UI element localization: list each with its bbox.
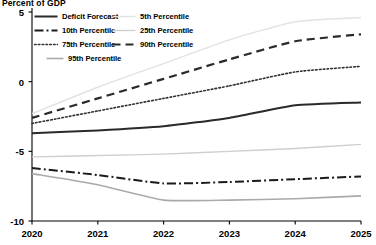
legend-item: 90th Percentile (112, 38, 220, 51)
legend-item: Deficit Forecast (34, 10, 112, 23)
legend-swatch-icon (34, 26, 58, 35)
legend-swatch-icon (112, 12, 136, 21)
legend-item: 25th Percentile (112, 24, 220, 37)
legend-swatch-icon (112, 40, 136, 49)
legend-item: 10th Percentile (34, 24, 112, 37)
legend-swatch-icon (34, 40, 58, 49)
legend-item: 95th Percentile (34, 52, 112, 65)
x-axis-tick-label: 2022 (142, 228, 186, 239)
legend-item: 5th Percentile (112, 10, 220, 23)
series-line (32, 103, 361, 134)
legend-label: 25th Percentile (140, 26, 193, 35)
x-axis-tick-label: 2024 (273, 228, 317, 239)
chart-legend: Deficit Forecast5th Percentile10th Perce… (34, 10, 220, 65)
y-axis-tick-label: 5 (0, 7, 24, 18)
y-axis-tick-label: -5 (0, 146, 24, 157)
x-axis-tick-label: 2023 (207, 228, 251, 239)
y-axis-tick-label: -10 (0, 216, 24, 227)
legend-label: 10th Percentile (62, 26, 115, 35)
legend-label: 5th Percentile (140, 12, 189, 21)
legend-swatch-icon (112, 26, 136, 35)
legend-label: 75th Percentile (62, 40, 115, 49)
legend-label: Deficit Forecast (62, 12, 118, 21)
x-axis-tick-label: 2021 (76, 228, 120, 239)
x-axis-tick-label: 2020 (10, 228, 54, 239)
y-axis-tick-label: 0 (0, 76, 24, 87)
legend-label: 95th Percentile (68, 54, 121, 63)
series-line (32, 144, 361, 157)
x-axis-tick-label: 2025 (339, 228, 376, 239)
legend-swatch-icon (34, 12, 58, 21)
legend-item: 75th Percentile (34, 38, 112, 51)
legend-swatch-icon (46, 54, 64, 63)
series-line (32, 66, 361, 123)
legend-label: 90th Percentile (140, 40, 193, 49)
